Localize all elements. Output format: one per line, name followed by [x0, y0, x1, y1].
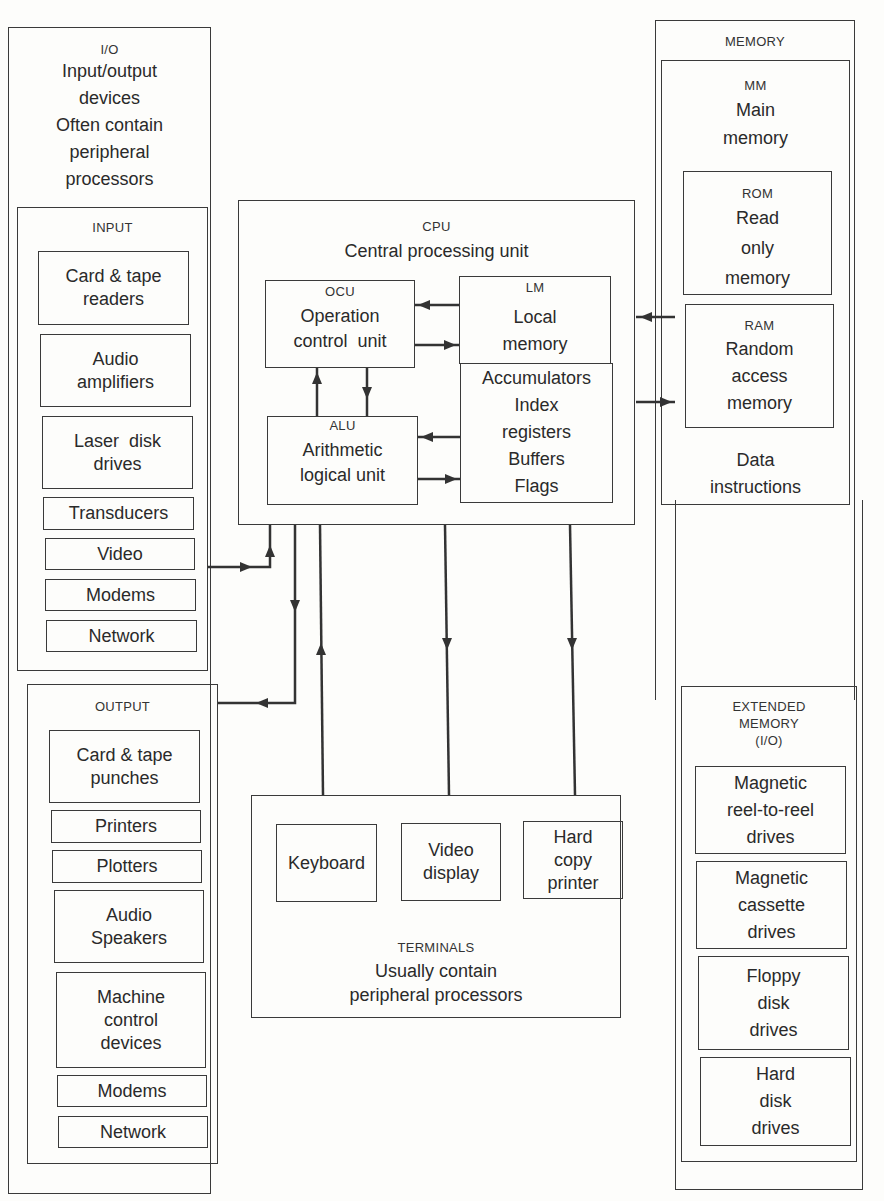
extended-item-floppy: Floppydiskdrives [698, 956, 849, 1050]
cpu-name: Central processing unit [239, 239, 634, 263]
output-item-audio-speakers: AudioSpeakers [54, 890, 204, 963]
alu-label: Arithmetic logical unit [268, 438, 417, 488]
alu-abbr: ALU [268, 418, 417, 434]
ocu-label: Operation control unit [266, 304, 414, 354]
extended-item-cassette: Magneticcassettedrives [696, 861, 847, 949]
io-description: Input/output devices Often contain perip… [9, 58, 210, 193]
input-item-video: Video [45, 538, 195, 570]
terminal-item-keyboard: Keyboard [276, 824, 377, 902]
input-item-network: Network [46, 620, 197, 652]
output-item-printers: Printers [51, 810, 201, 843]
rom-box: ROM Read only memory [683, 171, 832, 295]
output-item-machine-control-devices: Machinecontroldevices [56, 972, 206, 1068]
extended-title: EXTENDED MEMORY (I/O) [682, 698, 856, 749]
io-line: Often contain [9, 112, 210, 139]
registers-box: Accumulators Index registers Buffers Fla… [460, 363, 613, 503]
output-item-network: Network [58, 1116, 208, 1148]
ocu-box: OCU Operation control unit [265, 280, 415, 368]
output-item-modems: Modems [57, 1075, 207, 1107]
input-item-audio-amplifiers: Audioamplifiers [40, 334, 191, 407]
io-line: devices [9, 85, 210, 112]
io-line: processors [9, 166, 210, 193]
ram-label: Random access memory [686, 336, 833, 417]
input-item-modems: Modems [45, 579, 196, 611]
lm-label: Local memory [460, 304, 610, 358]
rom-abbr: ROM [684, 186, 831, 202]
input-item-laser-disk-drives: Laser diskdrives [42, 416, 193, 489]
io-abbr: I/O [9, 42, 210, 58]
rom-label: Read only memory [684, 203, 831, 293]
input-title: INPUT [18, 220, 207, 236]
output-item-plotters: Plotters [52, 850, 202, 883]
extended-item-hard-disk: Harddiskdrives [700, 1057, 851, 1146]
terminal-item-video-display: Videodisplay [401, 823, 501, 901]
terminals-description: Usually contain peripheral processors [252, 959, 620, 1007]
cpu-abbr: CPU [239, 219, 634, 235]
terminal-item-hard-copy-printer: Hardcopyprinter [523, 821, 623, 899]
ocu-abbr: OCU [266, 284, 414, 300]
ram-box: RAM Random access memory [685, 304, 834, 428]
io-line: peripheral [9, 139, 210, 166]
mm-abbr: MM [662, 78, 849, 94]
lm-abbr: LM [460, 280, 610, 296]
local-memory-box: LM Local memory [459, 276, 611, 364]
memory-title: MEMORY [656, 34, 854, 50]
terminals-caption: TERMINALS Usually contain peripheral pro… [252, 940, 620, 1007]
mm-label: Main memory [662, 96, 849, 152]
output-title: OUTPUT [28, 699, 217, 715]
terminals-title: TERMINALS [252, 940, 620, 956]
alu-box: ALU Arithmetic logical unit [267, 416, 418, 505]
ram-abbr: RAM [686, 318, 833, 334]
input-item-card-tape-readers: Card & tapereaders [38, 251, 189, 325]
extended-item-reel-to-reel: Magneticreel-to-reeldrives [695, 766, 846, 854]
output-item-card-tape-punches: Card & tapepunches [49, 730, 200, 803]
data-instructions-label: Data instructions [662, 447, 849, 501]
input-item-transducers: Transducers [43, 497, 194, 530]
registers-label: Accumulators Index registers Buffers Fla… [461, 365, 612, 500]
io-line: Input/output [9, 58, 210, 85]
